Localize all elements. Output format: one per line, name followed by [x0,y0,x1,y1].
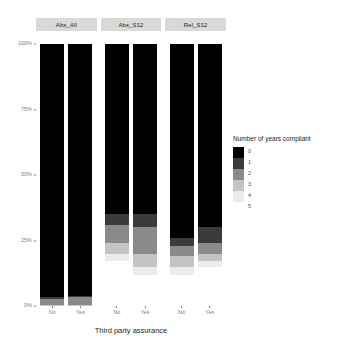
plot-panels [36,44,226,306]
x-axis-tick-label: Yes [76,310,85,316]
x-axis-tick-label: No [178,310,185,316]
stacked-bar[interactable] [40,44,64,306]
x-axis-tick-label: No [49,310,56,316]
legend-key-swatch [233,202,244,213]
bar-segment[interactable] [105,44,129,214]
stacked-bar[interactable] [133,44,157,306]
bar-segment[interactable] [170,256,194,266]
bar-segment[interactable] [105,254,129,262]
legend-key-swatch [233,158,244,169]
x-axis-title: Third party assurance [36,327,226,335]
y-axis: 100%75%50%25%0% [0,44,36,306]
legend-title: Number of years compliant [233,136,343,143]
bar-segment[interactable] [133,254,157,267]
legend-item[interactable]: 2 [233,169,343,180]
bar-segment[interactable] [170,44,194,238]
facet-strip-label: Rel_S12 [184,22,208,28]
x-axis-tick: Yes [133,306,157,324]
x-axis-tick-mark [209,306,210,308]
bar-segment[interactable] [170,238,194,246]
legend-item-label: 2 [248,171,251,177]
x-axis-tick: No [105,306,129,324]
legend-item[interactable]: 4 [233,191,343,202]
facet-strip-rel-s12: Rel_S12 [165,18,226,31]
x-axis-tick-mark [181,306,182,308]
legend-items: 012345 [233,147,343,213]
bar-segment[interactable] [133,44,157,214]
legend-item-label: 5 [248,204,251,210]
bar-segment[interactable] [105,243,129,253]
legend-item[interactable]: 0 [233,147,343,158]
legend-key-swatch [233,180,244,191]
legend-item[interactable]: 3 [233,180,343,191]
bar-segment[interactable] [68,44,92,296]
y-axis-tick-label: 25% [21,238,32,244]
facet-strip-label: Abs_All [56,22,77,28]
y-axis-tick-label: 100% [18,41,32,47]
facet-panel [165,44,226,306]
bar-segment[interactable] [170,267,194,275]
bar-segment[interactable] [133,267,157,275]
facet-strip-abs-s12: Abs_S12 [101,18,162,31]
legend-item-label: 3 [248,182,251,188]
y-axis-tick-label: 75% [21,107,32,113]
bar-segment[interactable] [40,44,64,297]
bar-segment[interactable] [170,246,194,256]
x-axis-tick-mark [80,306,81,308]
bar-segment[interactable] [105,225,129,243]
x-axis-tick: No [170,306,194,324]
x-axis: NoYesNoYesNoYes [36,306,226,324]
x-axis-panel: NoYes [101,306,162,324]
y-axis-tick-label: 0% [24,303,32,309]
facet-panel [101,44,162,306]
bar-segment[interactable] [133,214,157,227]
bar-segment[interactable] [198,243,222,253]
bar-segment[interactable] [68,297,92,305]
x-axis-panel: NoYes [165,306,226,324]
bar-segment[interactable] [170,275,194,306]
legend-key-swatch [233,169,244,180]
stacked-bar[interactable] [68,44,92,306]
x-axis-tick-label: Yes [141,310,150,316]
facet-strip-abs-all: Abs_All [36,18,97,31]
bar-segment[interactable] [198,254,222,262]
legend-item[interactable]: 1 [233,158,343,169]
legend-item[interactable]: 5 [233,202,343,213]
bar-segment[interactable] [105,214,129,224]
bar-segment[interactable] [133,275,157,306]
x-axis-tick-mark [116,306,117,308]
x-axis-tick: No [40,306,64,324]
bar-segment[interactable] [133,227,157,253]
legend-key-swatch [233,147,244,158]
x-axis-tick: Yes [68,306,92,324]
bar-segment[interactable] [198,44,222,227]
legend-item-label: 4 [248,193,251,199]
facet-panel [36,44,97,306]
x-axis-tick-mark [52,306,53,308]
legend-key-swatch [233,191,244,202]
x-axis-tick-label: No [113,310,120,316]
stacked-bar[interactable] [170,44,194,306]
x-axis-tick-mark [145,306,146,308]
facet-strip-label: Abs_S12 [118,22,143,28]
legend-item-label: 1 [248,160,251,166]
bar-segment[interactable] [105,261,129,306]
x-axis-tick: Yes [198,306,222,324]
stacked-bar[interactable] [105,44,129,306]
bar-segment[interactable] [198,267,222,306]
legend: Number of years compliant 012345 [233,136,343,213]
legend-item-label: 0 [248,149,251,155]
facet-strip-row: Abs_All Abs_S12 Rel_S12 [36,18,226,31]
bar-segment[interactable] [198,227,222,243]
x-axis-tick-label: Yes [205,310,214,316]
y-axis-tick-label: 50% [21,172,32,178]
x-axis-panel: NoYes [36,306,97,324]
stacked-bar[interactable] [198,44,222,306]
chart-root: Abs_All Abs_S12 Rel_S12 100%75%50%25%0% … [0,0,346,359]
